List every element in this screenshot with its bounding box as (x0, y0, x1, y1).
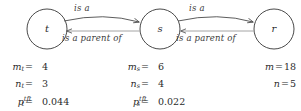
edge-s-to-r-curve (178, 17, 253, 22)
stat-row-n-t: nt=3 (0, 79, 48, 90)
stat-equals: = (24, 96, 34, 107)
stat-row-n-total: n=5 (232, 79, 296, 89)
graph-region: t s r is a is a parent of is a is a pare… (0, 0, 301, 56)
node-label-t: t (37, 23, 57, 34)
stat-value: 3 (34, 79, 48, 89)
node-label-r: r (264, 23, 284, 34)
stat-row-m-total: m=18 (232, 62, 296, 72)
stat-equals: = (24, 61, 34, 72)
stat-equals: = (140, 61, 150, 72)
stat-value: 18 (284, 61, 296, 72)
stat-value: 5 (290, 78, 296, 89)
stat-row-n-s: ns=4 (116, 79, 164, 90)
stat-value: 4 (150, 79, 164, 89)
stat-value: 0.022 (150, 97, 185, 107)
stat-row-p-t: ptftt=0.044 (0, 96, 69, 107)
edge-t-to-s-curve (64, 17, 139, 22)
stat-symbol: m (265, 61, 274, 72)
stat-value: 6 (150, 62, 164, 72)
stat-value: 0.044 (34, 97, 69, 107)
stat-equals: = (24, 78, 34, 89)
diagram-canvas: t s r is a is a parent of is a is a pare… (0, 0, 301, 111)
statistics-region: mt=4 nt=3 ptftt=0.044 ms=6 ns=4 ptfts=0.… (0, 56, 301, 111)
stat-equals: = (274, 61, 284, 72)
stat-row-m-s: ms=6 (116, 62, 164, 73)
edge-label-top-right: is a (189, 3, 205, 13)
stat-symbol: m (128, 61, 137, 72)
edge-label-bottom-left: is a parent of (62, 33, 122, 43)
stat-row-m-t: mt=4 (0, 62, 48, 73)
node-label-s: s (150, 23, 170, 34)
stat-equals: = (140, 96, 150, 107)
stat-equals: = (140, 78, 150, 89)
edge-label-top-left: is a (74, 3, 90, 13)
stat-row-p-s: ptfts=0.022 (116, 96, 185, 107)
stat-value: 4 (34, 62, 48, 72)
edge-label-bottom-right: is a parent of (176, 33, 236, 43)
stat-equals: = (280, 78, 290, 89)
